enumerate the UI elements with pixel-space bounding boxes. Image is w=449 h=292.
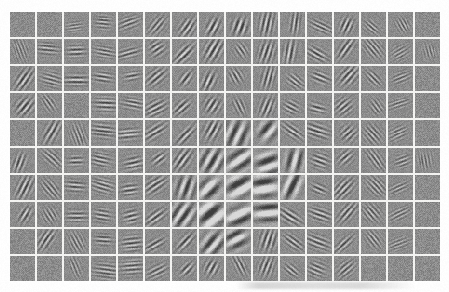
filter-patch-canvas <box>199 66 224 91</box>
filter-patch <box>388 202 413 227</box>
filter-patch-canvas <box>226 12 251 37</box>
filter-patch-canvas <box>307 229 332 254</box>
filter-patch <box>172 120 197 145</box>
filter-patch-canvas <box>10 66 35 91</box>
filter-patch-canvas <box>361 202 386 227</box>
filter-patch <box>145 12 170 37</box>
filter-patch-canvas <box>226 120 251 145</box>
filter-patch <box>145 202 170 227</box>
filter-patch <box>361 148 386 173</box>
filter-patch-canvas <box>199 175 224 200</box>
filter-patch-canvas <box>64 148 89 173</box>
filter-patch <box>91 229 116 254</box>
filter-patch <box>415 39 440 64</box>
scan-artifact-smudge <box>236 282 416 289</box>
filter-patch <box>145 66 170 91</box>
filter-patch <box>91 202 116 227</box>
filter-patch <box>91 39 116 64</box>
filter-patch <box>64 120 89 145</box>
filter-patch <box>37 39 62 64</box>
filter-patch-canvas <box>334 229 359 254</box>
filter-patch-canvas <box>118 93 143 118</box>
filter-patch-canvas <box>172 120 197 145</box>
filter-patch-canvas <box>145 229 170 254</box>
filter-patch-canvas <box>172 148 197 173</box>
filter-patch-canvas <box>91 120 116 145</box>
filter-patch-canvas <box>91 66 116 91</box>
filter-patch-canvas <box>226 93 251 118</box>
filter-patch-canvas <box>280 148 305 173</box>
filter-patch <box>334 175 359 200</box>
filter-patch-canvas <box>415 120 440 145</box>
filter-patch-canvas <box>64 120 89 145</box>
filter-patch <box>307 39 332 64</box>
filter-patch <box>307 148 332 173</box>
filter-patch <box>361 39 386 64</box>
filter-patch-canvas <box>388 148 413 173</box>
filter-patch <box>415 229 440 254</box>
filter-patch-canvas <box>361 39 386 64</box>
filter-patch-canvas <box>388 175 413 200</box>
filter-patch-canvas <box>91 202 116 227</box>
filter-patch <box>145 148 170 173</box>
filter-patch-canvas <box>334 66 359 91</box>
filter-patch-canvas <box>10 148 35 173</box>
filter-patch-canvas <box>145 39 170 64</box>
filter-patch <box>37 12 62 37</box>
filter-patch <box>388 175 413 200</box>
filter-patch <box>280 229 305 254</box>
filter-patch-canvas <box>253 202 278 227</box>
filter-patch-canvas <box>226 202 251 227</box>
filter-patch <box>199 66 224 91</box>
filter-patch-canvas <box>145 66 170 91</box>
filter-patch <box>280 202 305 227</box>
filter-patch <box>253 175 278 200</box>
filter-patch-canvas <box>91 148 116 173</box>
filter-patch-canvas <box>388 120 413 145</box>
filter-patch <box>172 39 197 64</box>
filter-patch-canvas <box>307 202 332 227</box>
filter-patch-canvas <box>10 229 35 254</box>
filter-patch-canvas <box>199 229 224 254</box>
filter-patch-canvas <box>307 93 332 118</box>
filter-patch <box>226 93 251 118</box>
filter-patch-canvas <box>226 229 251 254</box>
filter-patch-canvas <box>10 12 35 37</box>
filter-patch-canvas <box>388 229 413 254</box>
filter-patch <box>415 175 440 200</box>
filter-patch <box>10 66 35 91</box>
filter-patch <box>199 120 224 145</box>
filter-patch <box>280 175 305 200</box>
filter-patch-canvas <box>172 229 197 254</box>
filter-patch <box>64 229 89 254</box>
filter-patch <box>172 229 197 254</box>
filter-patch-canvas <box>64 66 89 91</box>
filter-patch <box>64 256 89 281</box>
filter-patch <box>199 39 224 64</box>
filter-patch-canvas <box>415 256 440 281</box>
filter-patch-canvas <box>91 93 116 118</box>
filter-patch <box>199 229 224 254</box>
filter-patch-canvas <box>388 12 413 37</box>
filter-patch-canvas <box>10 256 35 281</box>
filter-patch-canvas <box>226 148 251 173</box>
filter-patch <box>118 12 143 37</box>
filter-patch <box>37 256 62 281</box>
filter-patch-canvas <box>145 175 170 200</box>
filter-patch <box>307 256 332 281</box>
filter-patch <box>226 12 251 37</box>
filter-patch-canvas <box>91 175 116 200</box>
filter-patch <box>64 148 89 173</box>
filter-patch <box>361 120 386 145</box>
filter-patch <box>253 256 278 281</box>
filter-patch-canvas <box>172 202 197 227</box>
filter-patch <box>64 66 89 91</box>
filter-patch <box>64 12 89 37</box>
filter-patch <box>415 66 440 91</box>
filter-patch-canvas <box>172 256 197 281</box>
filter-patch <box>280 39 305 64</box>
filter-patch <box>37 229 62 254</box>
filter-patch-canvas <box>145 12 170 37</box>
filter-patch <box>226 256 251 281</box>
filter-patch-canvas <box>280 202 305 227</box>
